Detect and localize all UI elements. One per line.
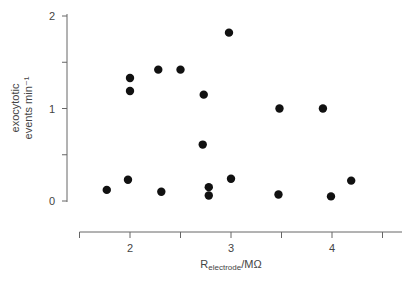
data-point [126,87,134,95]
data-point [205,183,213,191]
x-axis-label-subscript: electrode [208,263,241,272]
x-axis-label-units: /MΩ [241,258,261,270]
data-point [327,192,335,200]
x-tick-label: 3 [228,242,234,254]
y-tick-label: 2 [49,10,55,22]
x-axis: 234 [80,232,403,254]
scatter-chart: 012 234 [0,0,413,285]
data-points [103,28,356,200]
data-point [157,188,165,196]
data-point [319,104,327,112]
data-point [176,65,184,73]
y-axis-label: exocytotic events min⁻¹ [9,77,35,140]
data-point [227,175,235,183]
data-point [154,65,162,73]
x-axis-label-main: R [200,258,208,270]
y-axis-label-line1: exocytotic [9,77,22,140]
data-point [347,176,355,184]
data-point [103,186,111,194]
data-point [124,176,132,184]
x-tick-label: 2 [127,242,133,254]
y-axis-label-line2: events min⁻¹ [22,77,35,140]
y-tick-label: 0 [49,195,55,207]
y-axis: 012 [49,10,67,207]
data-point [274,190,282,198]
data-point [275,104,283,112]
data-point [200,90,208,98]
data-point [225,28,233,36]
data-point [199,140,207,148]
data-point [126,74,134,82]
y-tick-label: 1 [49,103,55,115]
x-tick-label: 4 [329,242,335,254]
x-axis-label: Relectrode/MΩ [200,258,261,272]
data-point [205,191,213,199]
